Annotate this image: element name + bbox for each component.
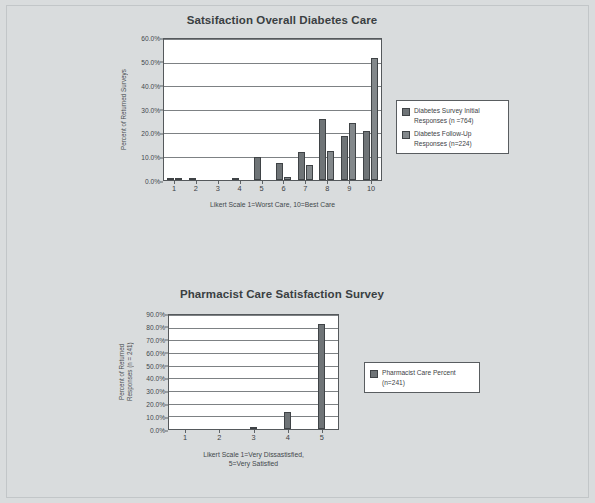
y-axis-tick-label: 50.0% <box>141 58 160 65</box>
x-axis-tick-label: 1 <box>163 181 185 193</box>
y-axis-tick-label: 60.0% <box>141 35 160 42</box>
x-axis-tick-label: 2 <box>202 430 236 442</box>
bar-category-group <box>304 315 338 429</box>
bar-group-container <box>164 39 381 180</box>
y-axis-tick-label: 10.0% <box>141 154 160 161</box>
legend-item: Diabetes Survey Initial Responses (n =76… <box>402 106 502 125</box>
bar-group-container <box>169 315 338 429</box>
y-axis-tick-label: 20.0% <box>141 130 160 137</box>
bar-category-group <box>294 39 316 180</box>
bar <box>167 178 174 180</box>
bar-category-group <box>270 315 304 429</box>
x-axis-tick-label: 1 <box>168 430 202 442</box>
bar <box>175 178 182 180</box>
legend-swatch-icon <box>370 370 378 378</box>
document-page: Satsifaction Overall Diabetes Care Perce… <box>0 0 595 503</box>
bar <box>371 58 378 180</box>
bar-category-group <box>273 39 295 180</box>
bar <box>349 123 356 180</box>
bar-category-group <box>186 39 208 180</box>
x-axis-tick-label: 3 <box>207 181 229 193</box>
y-axis-tick-label: 40.0% <box>146 375 165 382</box>
legend-item: Pharmacist Care Percent (n=241) <box>370 368 473 387</box>
legend-swatch-icon <box>402 131 410 139</box>
y-axis-tick-label: 90.0% <box>146 311 165 318</box>
chart1-y-axis-ticks: 0.0%10.0%20.0%30.0%40.0%50.0%60.0% <box>129 38 163 181</box>
bar-category-group <box>316 39 338 180</box>
bar-category-group <box>251 39 273 180</box>
bar <box>232 178 239 180</box>
chart1-x-axis-label: Likert Scale 1=Worst Care, 10=Best Care <box>163 200 382 209</box>
bar <box>189 178 196 180</box>
chart2-y-axis-label: Percent of Returned Responses (n = 241) <box>118 314 134 430</box>
bar <box>284 412 291 429</box>
chart2-x-axis: 12345 <box>168 430 339 443</box>
bar-category-group <box>164 39 186 180</box>
chart2-x-axis-label: Likert Scale 1=Very Dissastisfied, 5=Ver… <box>138 450 369 468</box>
bar-category-group <box>169 315 203 429</box>
chart-pharmacist-satisfaction: Pharmacist Care Satisfaction Survey Perc… <box>118 288 538 468</box>
y-axis-tick-label: 30.0% <box>141 106 160 113</box>
bar <box>276 163 283 180</box>
y-axis-tick-label: 70.0% <box>146 336 165 343</box>
y-axis-tick-label: 10.0% <box>146 414 165 421</box>
x-axis-tick-label: 10 <box>360 181 382 193</box>
bar <box>250 427 257 429</box>
legend-item-label: Diabetes Follow-Up Responses (n=224) <box>414 129 472 148</box>
chart1-plot-area <box>163 38 382 181</box>
bar <box>306 165 313 180</box>
bar-category-group <box>207 39 229 180</box>
bar-category-group <box>229 39 251 180</box>
bar-category-group <box>203 315 237 429</box>
bar <box>341 136 348 180</box>
y-axis-tick-label: 80.0% <box>146 323 165 330</box>
x-axis-tick-label: 6 <box>273 181 295 193</box>
y-axis-tick-label: 0.0% <box>145 178 160 185</box>
chart1-x-axis: 12345678910 <box>163 181 382 194</box>
chart1-legend: Diabetes Survey Initial Responses (n =76… <box>396 100 509 154</box>
x-axis-tick-label: 3 <box>236 430 270 442</box>
x-axis-tick-label: 7 <box>294 181 316 193</box>
y-axis-tick-label: 30.0% <box>146 388 165 395</box>
chart1-title: Satsifaction Overall Diabetes Care <box>132 14 432 26</box>
bar-category-group <box>338 39 360 180</box>
legend-item-label: Pharmacist Care Percent (n=241) <box>382 368 456 387</box>
bar-category-group <box>359 39 381 180</box>
bar-category-group <box>237 315 271 429</box>
x-axis-tick-label: 8 <box>316 181 338 193</box>
chart2-plot-area <box>168 314 339 430</box>
x-axis-tick-label: 5 <box>305 430 339 442</box>
y-axis-tick-label: 20.0% <box>146 401 165 408</box>
legend-swatch-icon <box>402 108 410 116</box>
x-axis-tick-label: 9 <box>338 181 360 193</box>
bar <box>318 324 325 429</box>
bar <box>254 157 261 180</box>
x-axis-tick-label: 4 <box>229 181 251 193</box>
legend-item: Diabetes Follow-Up Responses (n=224) <box>402 129 502 148</box>
chart2-legend: Pharmacist Care Percent (n=241) <box>364 362 480 393</box>
legend-item-label: Diabetes Survey Initial Responses (n =76… <box>414 106 480 125</box>
chart2-title: Pharmacist Care Satisfaction Survey <box>132 288 432 300</box>
bar <box>319 119 326 180</box>
bar <box>298 152 305 180</box>
y-axis-tick-label: 0.0% <box>150 427 165 434</box>
y-axis-tick-label: 60.0% <box>146 349 165 356</box>
chart2-y-axis-ticks: 0.0%10.0%20.0%30.0%40.0%50.0%60.0%70.0%8… <box>134 314 168 430</box>
chart1-y-axis-label: Percent of Returned Surveys <box>118 38 129 181</box>
bar <box>327 151 334 180</box>
chart-diabetes-satisfaction: Satsifaction Overall Diabetes Care Perce… <box>118 14 538 209</box>
y-axis-tick-label: 50.0% <box>146 362 165 369</box>
x-axis-tick-label: 4 <box>271 430 305 442</box>
bar <box>363 131 370 180</box>
y-axis-tick-label: 40.0% <box>141 82 160 89</box>
bar <box>284 177 291 180</box>
x-axis-tick-label: 5 <box>251 181 273 193</box>
x-axis-tick-label: 2 <box>185 181 207 193</box>
